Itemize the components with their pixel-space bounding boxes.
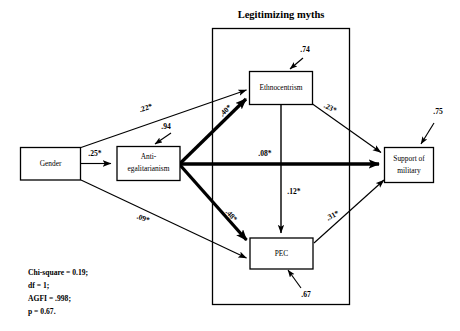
- disturbance-arrow-support: [421, 123, 434, 144]
- fit-stat-df: df = 1;: [28, 281, 49, 290]
- disturbance-label-antiegal: .94: [161, 122, 171, 131]
- path-label-gender-antiegal: .25*: [88, 149, 101, 158]
- node-label-antiegal-line2: egalitarianism: [128, 164, 170, 173]
- path-diagram-canvas: Legitimizing myths .25* .22* .09* .23* .…: [0, 0, 460, 331]
- disturbance-arrow-pec: [288, 270, 301, 288]
- path-gender-pec: [81, 180, 247, 258]
- path-label-gender-ethno: .22*: [138, 101, 154, 114]
- legitimizing-myths-title: Legitimizing myths: [238, 9, 325, 20]
- disturbance-arrow-ethno: [290, 58, 303, 69]
- path-label-antiegal-ethno: .40*: [218, 102, 234, 118]
- disturbance-label-ethno: .74: [300, 45, 310, 54]
- path-label-ethno-pec: .12*: [287, 187, 300, 196]
- node-label-support-line2: military: [397, 166, 421, 175]
- path-label-antiegal-pec: .48*: [224, 208, 240, 224]
- node-label-ethno: Ethnocentrism: [259, 83, 302, 92]
- path-gender-ethno: [81, 90, 247, 148]
- path-label-gender-pec: .09*: [135, 212, 151, 225]
- path-ethno-support: [313, 104, 382, 153]
- node-label-pec: PEC: [275, 249, 289, 258]
- disturbance-label-support: .75: [433, 107, 443, 116]
- node-label-antiegal-line1: Anti-: [141, 152, 157, 161]
- node-label-support-line1: Support of: [393, 154, 425, 163]
- path-label-antiegal-support: .08*: [258, 149, 271, 158]
- diagram-svg: Legitimizing myths .25* .22* .09* .23* .…: [0, 0, 460, 331]
- disturbance-label-pec: .67: [301, 290, 311, 299]
- fit-stat-agfi: AGFI = .998;: [28, 294, 71, 303]
- fit-stat-p-value: p = 0.67.: [28, 307, 56, 316]
- disturbance-arrow-antiegal: [155, 133, 171, 144]
- path-antiegal-pec: [180, 165, 247, 240]
- node-label-gender: Gender: [40, 159, 62, 168]
- fit-stat-chi-square: Chi-square = 0.19;: [28, 268, 88, 277]
